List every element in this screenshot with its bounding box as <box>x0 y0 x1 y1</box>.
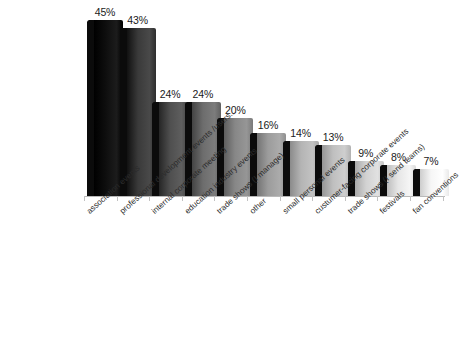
bar-1: 45% <box>87 20 123 196</box>
axis-tick <box>214 196 215 201</box>
bar-value-label: 43% <box>120 14 156 26</box>
bar-shadow <box>283 141 290 196</box>
bar-value-label: 24% <box>185 88 221 100</box>
axis-tick <box>117 196 118 201</box>
axis-tick <box>443 196 444 201</box>
axis-tick <box>345 196 346 201</box>
bar-value-label: 13% <box>315 131 351 143</box>
bar-value-label: 45% <box>87 6 123 18</box>
axis-tick <box>84 196 85 201</box>
axis-tick <box>410 196 411 201</box>
bar-value-label: 16% <box>250 119 286 131</box>
axis-tick <box>280 196 281 201</box>
axis-tick <box>149 196 150 201</box>
category-label-6: other <box>248 196 268 215</box>
category-labels: association eventsprofessional developme… <box>0 196 457 359</box>
axis-tick <box>247 196 248 201</box>
bar-body <box>87 20 123 196</box>
bar-shadow <box>413 169 420 196</box>
bar-value-label: 24% <box>152 88 188 100</box>
axis-tick <box>377 196 378 201</box>
axis-tick <box>312 196 313 201</box>
bar-value-label: 7% <box>413 155 449 167</box>
bar-shadow <box>87 20 94 196</box>
bar-value-label: 14% <box>283 127 319 139</box>
axis-tick <box>182 196 183 201</box>
